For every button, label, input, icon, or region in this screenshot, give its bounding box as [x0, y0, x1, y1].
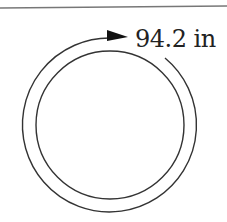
outer-arc: [22, 38, 196, 212]
circumference-label: 94.2 in: [135, 25, 216, 53]
top-rule: [0, 6, 227, 8]
arrowhead-icon: [107, 30, 128, 41]
inner-circle: [36, 51, 184, 199]
diagram: 94.2 in: [0, 0, 227, 222]
